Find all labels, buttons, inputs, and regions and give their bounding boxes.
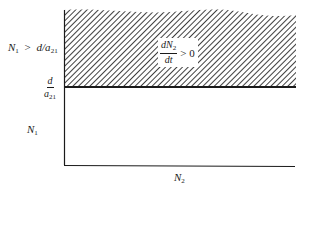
threshold-label: d a21 (44, 76, 56, 101)
y-axis-label: N1 (27, 124, 38, 137)
condition-rhs-sub: 21 (51, 47, 58, 55)
growth-annotation: dN2 dt > 0 (158, 38, 198, 67)
region-condition-label: N1 > d/a21 (8, 42, 58, 55)
condition-rhs: d/a (37, 41, 51, 53)
condition-lhs-sub: 1 (15, 47, 19, 55)
condition-operator: > (22, 41, 34, 53)
threshold-denominator: a21 (44, 88, 56, 101)
derivative-relation: > 0 (180, 47, 194, 59)
threshold-numerator: d (47, 76, 54, 88)
x-axis (64, 166, 295, 167)
derivative-fraction: dN2 dt (160, 40, 177, 65)
derivative-numerator: dN2 (160, 40, 177, 54)
derivative-denominator: dt (165, 54, 173, 65)
x-axis-label: N2 (174, 172, 185, 185)
